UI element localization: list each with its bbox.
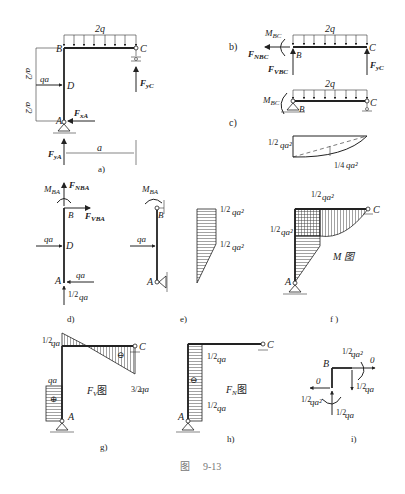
diagram-title: FV图	[86, 385, 107, 398]
value-bot: qa	[217, 403, 227, 413]
frac-mid: 1/4	[334, 161, 344, 170]
node-c-label: C	[267, 339, 274, 350]
value-top: qa	[217, 354, 227, 364]
node-c-label: C	[373, 204, 380, 215]
panel-b-label: b)	[229, 41, 237, 53]
node-b-label: B	[323, 358, 329, 369]
right-axial-label: 0	[370, 355, 375, 365]
value-left: qa	[48, 375, 58, 385]
moment-top: qa²	[351, 349, 363, 359]
value-top: qa²	[232, 207, 244, 217]
moment-crosshatch	[295, 209, 320, 236]
moment-diagram-beam	[320, 209, 368, 236]
moment-top-arc	[358, 362, 364, 380]
node-b-label: B	[299, 104, 305, 114]
node-a-label: A	[55, 115, 63, 126]
panel-b: b) 2q MBC FNBC FVBC B C FyC	[229, 23, 384, 76]
reaction-ya-label: FyA	[47, 149, 62, 161]
node-a-label: A	[67, 411, 75, 422]
node-a-label: A	[54, 275, 62, 286]
load-label: qa	[137, 234, 147, 244]
node-b-label: B	[68, 210, 74, 220]
moment-bc-arc	[281, 93, 287, 114]
dim-lower-label: a/2	[24, 102, 34, 114]
panel-e: MBA B qa A 1/2 qa² 1/2 qa² e)	[130, 184, 244, 324]
shear-force-label: FVBC	[267, 64, 288, 76]
panel-e-label: e)	[180, 314, 187, 324]
panel-a-label: a)	[98, 164, 105, 174]
dim-upper-label: a/2	[24, 68, 34, 80]
sign-negative: ⊖	[190, 375, 198, 385]
caption-number: 9-13	[203, 461, 221, 472]
frac-top: 1/2	[220, 205, 230, 214]
distributed-load-2q	[293, 35, 367, 45]
moment-diagram-column	[295, 236, 320, 282]
normal-force-label: FNBC	[247, 49, 269, 61]
load-label: 2q	[325, 78, 335, 89]
moment-bot: qa²	[310, 397, 322, 407]
node-b-label: B	[56, 43, 62, 54]
moment-ba-label: MBA	[141, 184, 159, 196]
moment-diagram-ab	[197, 209, 216, 283]
shear-negative-beam	[87, 346, 135, 374]
panel-c-label: c)	[229, 117, 237, 129]
frac-mid: 1/2	[220, 240, 230, 249]
reaction-yc-label: FyC	[139, 78, 154, 90]
frac-top: 1/2	[311, 190, 321, 199]
panel-i: B 1/2 qa² 0 1/2 qa 0 1/2 qa² 1/2 qa i)	[301, 347, 375, 444]
value-top: qa²	[322, 192, 334, 202]
shear-force-label: FVBA	[84, 211, 105, 223]
panel-c: 2q MBC B C c) 1/2 qa² 1/4 qa²	[229, 78, 377, 170]
panel-h-label: h)	[227, 434, 235, 444]
panel-g: C A ⊖ ⊕ 1/2 qa 3/2 qa qa FV图 g)	[42, 333, 150, 452]
normal-force-label: FNBA	[68, 180, 90, 192]
node-a-label: A	[177, 411, 185, 422]
distributed-load-2q	[64, 35, 136, 46]
panel-d: MBA FNBA FVBA B qa D A qa 1/2 qa d)	[36, 180, 105, 324]
beam-shear-label: qa	[365, 384, 375, 394]
load-a-label: qa	[76, 270, 86, 280]
frac-left: 1/2	[270, 225, 280, 234]
moment-bc-label: MBC	[262, 95, 280, 107]
load-label: 2q	[95, 23, 105, 34]
value-top: qa	[51, 338, 61, 348]
reaction-xa-label: FxA	[73, 108, 89, 120]
node-c-label: C	[139, 341, 146, 352]
hinge-c	[134, 46, 138, 50]
point-load-label: qa	[40, 74, 50, 84]
node-a-label: A	[284, 276, 292, 287]
panel-i-label: i)	[351, 434, 357, 444]
moment-ba-arc	[145, 199, 162, 204]
frac-bot: 1/2	[207, 401, 217, 410]
value-mid: qa²	[232, 242, 244, 252]
panel-f-label: f )	[330, 314, 338, 324]
figure-9-13: 2q B C D A FyC a/2 a/2 qa	[0, 0, 405, 494]
sign-positive: ⊕	[50, 394, 58, 404]
node-d-label: D	[66, 80, 75, 91]
frac-left: 1/2	[268, 138, 278, 147]
panel-g-label: g)	[100, 442, 108, 452]
reaction-yc-label: FyC	[369, 60, 384, 72]
caption-prefix: 图	[180, 461, 190, 472]
node-c-label: C	[140, 43, 147, 54]
diagram-title: M 图	[332, 251, 356, 262]
value-mid: qa²	[346, 160, 358, 170]
panel-d-label: d)	[67, 314, 75, 324]
span-label: a	[97, 142, 102, 153]
value-left: qa²	[280, 140, 292, 150]
panel-h: C A ⊖ 1/2 qa 1/2 qa FN图 h)	[176, 339, 274, 444]
shear-positive-beam	[62, 333, 87, 346]
node-b-label: B	[158, 210, 164, 220]
sign-negative: ⊖	[117, 350, 125, 360]
frac-top: 1/2	[207, 352, 217, 361]
node-c-label: C	[369, 42, 376, 53]
load-d-label: qa	[44, 234, 54, 244]
value-right: qa	[140, 384, 150, 394]
node-d-label: D	[65, 240, 74, 251]
panel-a: 2q B C D A FyC a/2 a/2 qa	[24, 23, 154, 174]
load-label: 2q	[325, 23, 335, 34]
column-axial-label: qa	[345, 410, 355, 420]
diagram-title: FN图	[225, 384, 247, 397]
left-axial-label: 0	[316, 376, 321, 386]
node-c-label: C	[370, 97, 377, 108]
